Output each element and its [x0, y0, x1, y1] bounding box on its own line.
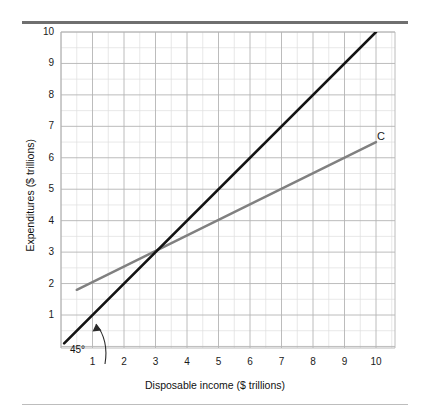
x-tick-label-7: 7 — [270, 357, 294, 367]
y-tick-label-9: 9 — [32, 58, 54, 68]
chart-plot-area — [0, 0, 430, 418]
x-tick-label-4: 4 — [175, 357, 199, 367]
angle-label-45: 45° — [70, 345, 85, 355]
x-tick-label-8: 8 — [301, 357, 325, 367]
figure-container: 12345678910 12345678910 Disposable incom… — [0, 0, 430, 418]
x-tick-label-2: 2 — [112, 357, 136, 367]
y-axis-title: Expenditures ($ trillions) — [25, 95, 36, 295]
x-tick-label-6: 6 — [238, 357, 262, 367]
x-tick-label-9: 9 — [333, 357, 357, 367]
y-tick-label-1: 1 — [32, 310, 54, 320]
y-tick-label-8: 8 — [32, 90, 54, 100]
x-tick-label-3: 3 — [144, 357, 168, 367]
y-tick-label-2: 2 — [32, 279, 54, 289]
x-tick-label-1: 1 — [81, 357, 105, 367]
curve-label-c: C — [377, 131, 385, 142]
x-tick-label-10: 10 — [364, 357, 388, 367]
y-tick-label-10: 10 — [32, 27, 54, 37]
x-axis-title: Disposable income ($ trillions) — [0, 380, 430, 391]
y-tick-label-7: 7 — [32, 121, 54, 131]
x-tick-label-5: 5 — [207, 357, 231, 367]
